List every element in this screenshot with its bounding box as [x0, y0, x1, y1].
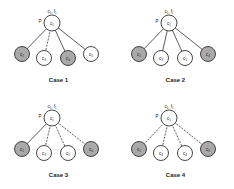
svg-text:c₁, f₁: c₁, f₁: [47, 9, 57, 14]
svg-text:c₁, f₁: c₁, f₁: [164, 104, 174, 109]
case-4-panel: c₂c₃c₄c₅c₁c₁, f₁P Case 4: [117, 95, 234, 189]
child-node-label: c₃: [42, 151, 46, 156]
child-node-label: c₂: [20, 52, 24, 57]
case-1-panel: c₂c₃c₄c₅c₁c₁, f₁P Case 1: [0, 0, 117, 94]
child-node-label: c₃: [42, 56, 46, 61]
child-node-label: c₄: [66, 56, 70, 61]
svg-text:c₁: c₁: [167, 116, 171, 121]
case-2-panel: c₂c₃c₅c₄c₁c₁, f₁P Case 2: [117, 0, 234, 94]
child-node-label: c₃: [159, 151, 163, 156]
child-node-label: c₃: [159, 56, 163, 61]
svg-text:c₁, f₁: c₁, f₁: [47, 104, 57, 109]
child-node-label: c₄: [206, 52, 210, 57]
child-node-label: c₄: [183, 151, 187, 156]
svg-text:P: P: [155, 19, 158, 24]
child-node-label: c₂: [20, 147, 24, 152]
svg-text:P: P: [38, 19, 41, 24]
child-node-label: c₅: [89, 52, 93, 57]
svg-text:c₁, f₁: c₁, f₁: [164, 9, 174, 14]
child-node-label: c₅: [66, 151, 70, 156]
svg-text:c₁: c₁: [167, 21, 171, 26]
child-node-label: c₂: [137, 147, 141, 152]
child-node-label: c₅: [206, 147, 210, 152]
svg-text:P: P: [155, 114, 158, 119]
child-node-label: c₂: [137, 52, 141, 57]
case-3-panel: c₂c₃c₅c₄c₁c₁, f₁P Case 3: [0, 95, 117, 189]
case-1-label: Case 1: [0, 77, 117, 83]
svg-text:c₁: c₁: [50, 116, 54, 121]
child-node-label: c₄: [89, 147, 93, 152]
child-node-label: c₅: [183, 56, 187, 61]
case-4-label: Case 4: [117, 172, 234, 178]
case-3-label: Case 3: [0, 172, 117, 178]
svg-text:P: P: [38, 114, 41, 119]
svg-text:c₁: c₁: [50, 21, 54, 26]
case-2-label: Case 2: [117, 77, 234, 83]
